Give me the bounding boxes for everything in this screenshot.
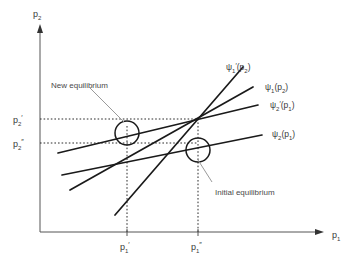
annotation-new-equilibrium: New equilibrium [51, 81, 108, 90]
annotation-initial-equilibrium: Initial equilibrium [215, 188, 275, 197]
figure-canvas: p2 p1 [0, 0, 351, 271]
leader-new-equilibrium [90, 88, 124, 122]
y-tick-label-initial: p2″ [13, 138, 24, 151]
leader-initial-equilibrium [198, 160, 212, 182]
curve-label-psi1-p2: ψ1(p2) [265, 82, 288, 94]
y-axis-arrowhead [37, 24, 43, 33]
y-tick-label-new: p2′ [13, 114, 23, 127]
x-tick-label-initial: p1″ [191, 241, 202, 254]
curve-psi1-p2[interactable] [70, 87, 253, 190]
axis-labels-group: p2 p1 [33, 9, 341, 242]
curve-psi2-p1[interactable] [62, 135, 262, 175]
curve-label-psi2-prime-p1: ψ2′(p1) [270, 100, 295, 112]
y-axis-label: p2 [33, 9, 42, 21]
x-tick-label-new: p1′ [120, 241, 130, 254]
curve-psi2-prime-p1[interactable] [58, 105, 258, 153]
curve-label-psi2-p1: ψ2(p1) [272, 129, 295, 141]
x-axis-arrowhead [315, 229, 324, 235]
x-axis-label: p1 [332, 230, 341, 242]
equilibrium-diagram: p2 p1 [0, 0, 351, 271]
curve-label-psi1-prime-p2: ψ1′(p2) [226, 62, 251, 74]
y-tick-labels: p2′ p2″ [13, 114, 24, 151]
x-tick-labels: p1′ p1″ [120, 241, 202, 254]
